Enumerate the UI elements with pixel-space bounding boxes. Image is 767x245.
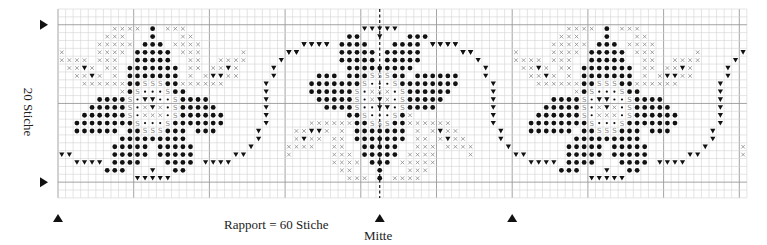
dot-stitch-symbol [408,97,413,102]
triangle-stitch-symbol [218,74,223,79]
cross-stitch-symbol [575,43,579,47]
dot-stitch-symbol [370,50,375,55]
cross-stitch-symbol [370,98,374,102]
dot-stitch-symbol [128,160,133,165]
dot-stitch-symbol [620,58,625,63]
cross-stitch-symbol [560,82,564,86]
cross-stitch-symbol [355,161,359,165]
dot-stitch-symbol [589,136,594,141]
dot-stitch-symbol [385,144,390,149]
cross-stitch-symbol [643,58,647,62]
dot-stitch-symbol [143,152,148,157]
dot-stitch-symbol [97,105,102,110]
dot-stitch-symbol [211,113,216,118]
triangle-stitch-symbol [264,113,269,118]
dot-stitch-symbol [97,121,102,126]
dot-stitch-symbol [574,152,579,157]
dot-stitch-symbol [392,136,397,141]
dot-stitch-symbol [317,73,322,78]
dot-stitch-symbol [181,121,186,126]
triangle-stitch-symbol [317,129,322,134]
s-stitch-symbol: S [393,80,398,88]
s-stitch-symbol: S [158,80,163,88]
cross-stitch-symbol [348,121,352,125]
dot-stitch-symbol [188,160,193,165]
cross-stitch-symbol [340,169,344,173]
dot-stitch-symbol [362,121,367,126]
dot-stitch-symbol [415,105,420,110]
dot-stitch-symbol [574,113,579,118]
s-stitch-symbol: S [605,80,610,88]
dot-stitch-symbol [574,136,579,141]
triangle-stitch-symbol [150,176,155,181]
cross-stitch-symbol [658,74,662,78]
cross-stitch-symbol [105,43,109,47]
dot-stitch-symbol [559,168,564,173]
cross-stitch-symbol [423,137,427,141]
cross-stitch-symbol [643,66,647,70]
dot-stitch-symbol [150,42,155,47]
small-dot-stitch-symbol [591,106,593,108]
small-dot-stitch-symbol [371,114,373,116]
s-stitch-symbol: S [362,112,367,120]
cross-stitch-symbol [416,153,420,157]
dot-stitch-symbol [642,152,647,157]
cross-stitch-symbol [681,58,685,62]
cross-stitch-symbol [98,50,102,54]
small-dot-stitch-symbol [606,122,608,124]
triangle-stitch-symbol [226,66,231,71]
dot-stitch-symbol [597,152,602,157]
dot-stitch-symbol [339,81,344,86]
cross-stitch-symbol [643,43,647,47]
cross-stitch-symbol [189,58,193,62]
dot-stitch-symbol [657,113,662,118]
cross-stitch-symbol [128,43,132,47]
cross-stitch-symbol [325,121,329,125]
dot-stitch-symbol [385,50,390,55]
triangle-stitch-symbol [271,74,276,79]
cross-stitch-symbol [552,82,556,86]
triangle-stitch-symbol [279,58,284,63]
cross-stitch-symbol [590,27,594,31]
cross-stitch-symbol [567,35,571,39]
dot-stitch-symbol [551,129,556,134]
s-stitch-symbol: S [385,120,390,128]
cross-stitch-symbol [98,58,102,62]
triangle-stitch-symbol [82,66,87,71]
dot-stitch-symbol [362,50,367,55]
dot-stitch-symbol [181,160,186,165]
dot-stitch-symbol [650,129,655,134]
dot-stitch-symbol [574,168,579,173]
cross-stitch-symbol [575,82,579,86]
dot-stitch-symbol [120,136,125,141]
dot-stitch-symbol [105,113,110,118]
dot-stitch-symbol [657,121,662,126]
dot-stitch-symbol [604,42,609,47]
dot-stitch-symbol [423,73,428,78]
cross-stitch-symbol [529,66,533,70]
dot-stitch-symbol [181,168,186,173]
cross-stitch-symbol [340,161,344,165]
cross-stitch-symbol [302,129,306,133]
dot-stitch-symbol [430,97,435,102]
side-arrow-marker [40,177,48,187]
cross-stitch-symbol [340,153,344,157]
cross-stitch-symbol [673,58,677,62]
dot-stitch-symbol [612,50,617,55]
dot-stitch-symbol [438,73,443,78]
dot-stitch-symbol [567,152,572,157]
dot-stitch-symbol [362,129,367,134]
dot-stitch-symbol [635,136,640,141]
cross-stitch-symbol [454,129,458,133]
dot-stitch-symbol [218,113,223,118]
dot-stitch-symbol [203,121,208,126]
dot-stitch-symbol [97,129,102,134]
cross-stitch-symbol [635,35,639,39]
dot-stitch-symbol [551,105,556,110]
s-stitch-symbol: S [627,104,632,112]
s-stitch-symbol: S [355,88,360,96]
s-stitch-symbol: S [143,80,148,88]
dot-stitch-symbol [347,50,352,55]
triangle-stitch-symbol [385,105,390,110]
dot-stitch-symbol [423,81,428,86]
